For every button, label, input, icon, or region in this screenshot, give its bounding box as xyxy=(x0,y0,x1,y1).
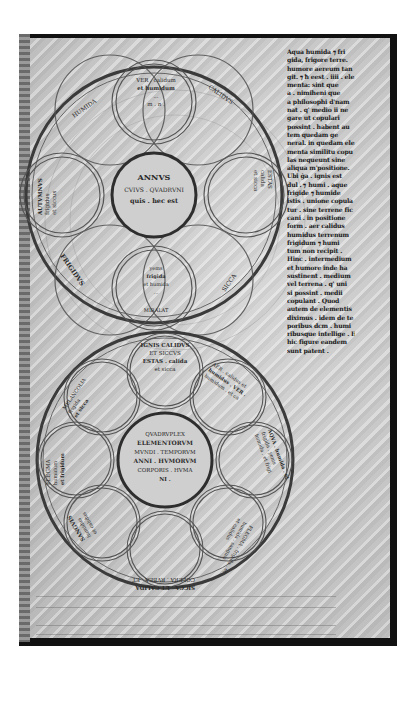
text-line: autem de elementis xyxy=(287,305,355,313)
ring-label-lower-right: SICCA xyxy=(220,272,238,293)
petal-right-line-2: calida xyxy=(260,170,266,187)
upper-center-line-3: quis . hec est xyxy=(130,197,178,205)
text-line: diximus . idem de te xyxy=(287,314,355,322)
petal-bottom-line-1: yems xyxy=(148,265,163,272)
text-line: nat . q' medio ii ne xyxy=(287,106,355,114)
segment-left-line-2: humidum xyxy=(52,461,58,485)
text-line: copulant . Quod xyxy=(287,297,355,305)
segment-bottom-line-2: SICCA . ET CALIDA xyxy=(135,585,195,591)
petal-bottom-line-2: frigida xyxy=(147,273,167,280)
text-line: dul . ⁊ humi . aque xyxy=(287,181,355,189)
latin-text-column: Aqua humida ⁊ frigida, frigore terre.hum… xyxy=(287,48,355,355)
text-line: sunt patent . xyxy=(287,347,355,355)
text-line: menta similitu copu xyxy=(287,148,355,156)
lower-center-line-3: MVNDI . TEMPORVM xyxy=(134,449,196,455)
petal-bottom-line-3: et humida xyxy=(143,281,169,287)
text-line: vel terrena . q' uni xyxy=(287,280,355,288)
petal-left-line-3: et siccus xyxy=(51,191,57,215)
text-line: aliqua m'positione. xyxy=(287,164,355,172)
lower-center-line-1: QVADRVPLEX xyxy=(145,431,185,437)
petal-bottom-line-4: ... xyxy=(154,289,159,295)
segment-top-line-1: IGNIS CALIDVS xyxy=(141,342,190,348)
text-line: possint . habent au xyxy=(287,123,355,131)
cosmological-diagrams: ANNVS CVIVS . QVADRVNI quis . hec est VE… xyxy=(0,0,418,719)
text-line: tem quedam ge xyxy=(287,131,355,139)
petal-left-line-1: AUTVMNVS xyxy=(37,178,43,216)
text-line: cani . in positione xyxy=(287,214,355,222)
text-line: tur . sine terrene fic xyxy=(287,206,355,214)
text-line: Hinc . intermedium xyxy=(287,255,355,263)
lower-center-line-4: ANNI . HVMORVM xyxy=(133,457,197,464)
text-line: a . nimiheni que xyxy=(287,89,355,97)
text-line: Aqua humida ⁊ fri xyxy=(287,48,355,56)
text-line: sustinent . medium xyxy=(287,272,355,280)
lower-center-line-5: CORPORIS . HVMA xyxy=(138,467,194,473)
petal-top-line-3: ... xyxy=(153,93,158,99)
segment-top-line-4: et sicca xyxy=(154,366,176,372)
text-line: humidus terrenum xyxy=(287,231,355,239)
text-line: et humore inde ha xyxy=(287,264,355,272)
segment-left-line-1: FLEGMA xyxy=(45,458,51,485)
petal-right-line-3: et sicca xyxy=(253,170,259,192)
text-line: neral. in quedam ele xyxy=(287,139,355,147)
segment-left-line-3: et frigidum xyxy=(59,453,66,485)
segment-top-line-3: ESTAS . calida xyxy=(143,358,188,364)
text-line: a philosophi d'nam xyxy=(287,98,355,106)
petal-top-line-4: m . n . xyxy=(147,101,165,107)
segment-top-line-2: ET SICCVS xyxy=(149,350,181,356)
text-line: gida, frigore terre. xyxy=(287,56,355,64)
petal-left-line-2: frigidus xyxy=(44,193,51,215)
text-line: istis . unione copula xyxy=(287,197,355,205)
ring-label-lower-left: FRIGIDVS xyxy=(58,253,86,288)
text-line: frigidum ⁊ humi xyxy=(287,239,355,247)
segment-bottom-line-1: COLERA . RVBEA . ET xyxy=(132,577,195,583)
text-line: hic figure eandem xyxy=(287,338,355,346)
text-line: frigide ⁊ humide xyxy=(287,189,355,197)
text-line: tum non recipit . xyxy=(287,247,355,255)
lower-center-line-2: ELEMENTORVM xyxy=(137,439,193,446)
text-line: poribus dcm . humi xyxy=(287,322,355,330)
text-line: git. ⁊ ħ eest . iiii . ele xyxy=(287,73,355,81)
ring-label-upper-left: HUMIDA xyxy=(71,97,98,119)
upper-center-line-2: CVIVS . QVADRVNI xyxy=(124,186,184,193)
text-line: gare ut copulari xyxy=(287,114,355,122)
petal-bottom-line-5: MIRALAT xyxy=(144,307,169,313)
text-line: ribusque intellige . Hoc xyxy=(287,330,355,338)
text-line: las nequeunt sine xyxy=(287,156,355,164)
petal-top-line-1: VER . calidum xyxy=(135,77,176,83)
text-line: menta: sint que xyxy=(287,81,355,89)
lower-center-line-6: NI . xyxy=(159,476,171,482)
text-line: si possint . medii xyxy=(287,289,355,297)
text-line: humore aereum tan xyxy=(287,65,355,73)
petal-top-line-2: et humidum xyxy=(137,85,175,91)
text-line: form . aer calidus xyxy=(287,222,355,230)
petal-right-line-1: ESTAS xyxy=(267,170,273,189)
upper-center-line-1: ANNVS xyxy=(137,172,171,182)
text-line: Ubi ġa . ignis est xyxy=(287,172,355,180)
